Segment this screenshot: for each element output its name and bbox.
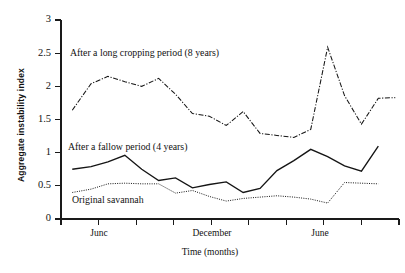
x-tick-label-december: December [192, 228, 232, 238]
y-tick-label-1: 1 [46, 146, 51, 157]
line-chart: Aggregate instability index 3 2.5 2 1.5 … [0, 0, 405, 273]
chart-figure: Aggregate instability index 3 2.5 2 1.5 … [0, 0, 405, 273]
x-tick-label-june-2: June [311, 228, 328, 238]
series-label-long-cropping-period: After a long cropping period (8 years) [70, 47, 219, 59]
series-line-fallow-period [72, 146, 378, 192]
y-tick-label-0: 0 [46, 212, 51, 223]
y-tick-label-0.5: 0.5 [38, 179, 51, 190]
y-ticks [55, 20, 61, 219]
y-tick-labels: 3 2.5 2 1.5 1 0.5 0 [38, 13, 51, 223]
y-tick-label-2: 2 [46, 80, 51, 91]
series-label-fallow-period: After a fallow period (4 years) [68, 141, 187, 153]
series-label-original-savannah: Original savannah [72, 194, 144, 205]
y-tick-label-2.5: 2.5 [38, 47, 51, 58]
y-axis-title: Aggregate instability index [16, 68, 26, 182]
y-tick-label-3: 3 [46, 13, 51, 24]
y-tick-label-1.5: 1.5 [38, 113, 51, 124]
x-ticks [61, 219, 399, 225]
series-line-long-cropping-period [72, 47, 395, 137]
x-tick-label-june-1: Junc [90, 228, 107, 238]
x-tick-labels: Junc December June [90, 228, 328, 238]
x-axis-title: Time (months) [182, 247, 238, 258]
